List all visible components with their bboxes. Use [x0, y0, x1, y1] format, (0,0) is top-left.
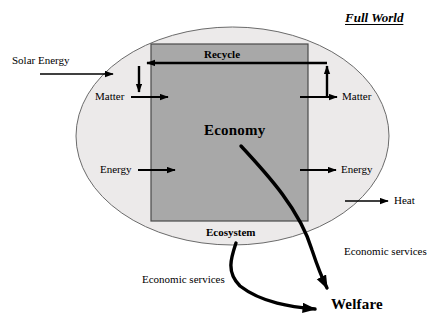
label-welfare: Welfare — [331, 297, 383, 312]
diagram-canvas: Full World Solar Energy Recycle Matter M… — [0, 0, 437, 328]
label-ecosystem: Ecosystem — [206, 227, 256, 238]
label-matter-in: Matter — [95, 91, 124, 102]
label-heat: Heat — [394, 195, 415, 206]
label-economy: Economy — [204, 123, 265, 138]
label-energy-in: Energy — [100, 164, 132, 175]
label-economic-services-right: Economic services — [344, 246, 427, 257]
page-title: Full World — [345, 11, 403, 24]
label-energy-out: Energy — [341, 164, 373, 175]
ecosystem-to-welfare-arrow — [231, 243, 315, 309]
label-recycle: Recycle — [204, 49, 240, 60]
label-matter-out: Matter — [342, 91, 371, 102]
label-solar-energy: Solar Energy — [12, 55, 70, 66]
label-economic-services-left: Economic services — [142, 274, 225, 285]
